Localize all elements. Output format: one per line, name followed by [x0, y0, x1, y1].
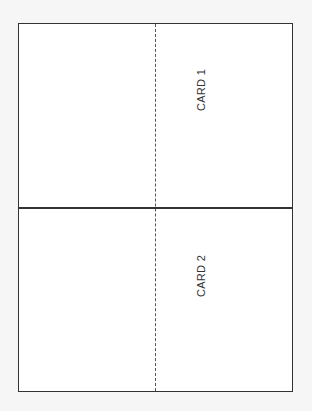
- card-divider: [19, 207, 292, 209]
- card-1-label: CARD 1: [195, 60, 207, 120]
- card-sheet: [18, 23, 293, 392]
- card-2-label: CARD 2: [195, 246, 207, 306]
